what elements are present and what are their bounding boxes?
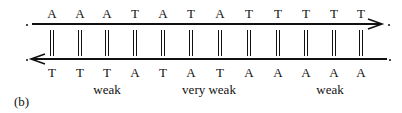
region-label: weak	[93, 83, 120, 96]
bottom-base: T	[216, 66, 224, 79]
top-base: A	[158, 7, 167, 20]
top-base: T	[302, 7, 310, 20]
bottom-base: A	[130, 66, 139, 79]
bottom-base: A	[356, 66, 365, 79]
top-base: A	[75, 7, 84, 20]
top-right-dot	[388, 24, 390, 26]
top-base: T	[357, 7, 365, 20]
bottom-base: A	[244, 66, 253, 79]
top-base: A	[102, 7, 111, 20]
bottom-base: A	[329, 66, 338, 79]
region-label: very weak	[182, 83, 236, 96]
top-base: T	[274, 7, 282, 20]
region-label: weak	[316, 83, 343, 96]
bottom-base: A	[301, 66, 310, 79]
bottom-base: T	[76, 66, 84, 79]
bottom-left-dot	[26, 59, 28, 61]
bottom-base: T	[159, 66, 167, 79]
top-base: A	[47, 7, 56, 20]
top-base: T	[245, 7, 253, 20]
top-base: A	[215, 7, 224, 20]
figure-label: (b)	[14, 95, 29, 108]
bottom-base: A	[273, 66, 282, 79]
bottom-base: A	[186, 66, 195, 79]
hydrogen-bonds	[51, 30, 363, 56]
top-base: T	[131, 7, 139, 20]
bottom-right-dot	[389, 59, 391, 61]
top-base: T	[330, 7, 338, 20]
top-base: T	[187, 7, 195, 20]
bottom-base: T	[48, 66, 56, 79]
top-left-dot	[26, 24, 28, 26]
bottom-base: T	[103, 66, 111, 79]
